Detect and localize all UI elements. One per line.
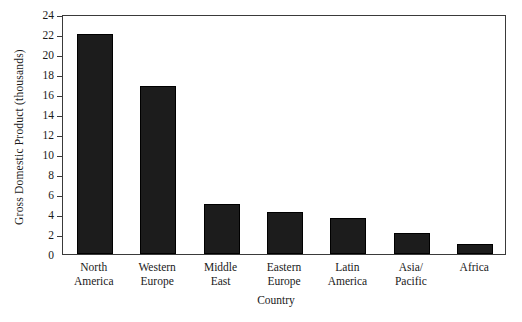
x-tick-label: Africa [430,260,518,274]
y-tick-label: 22 [26,30,54,41]
bar [204,204,240,254]
bar [267,212,303,254]
plot-area [62,15,506,255]
x-axis-title: Country [0,294,522,306]
bar-series [63,16,505,254]
y-tick-label: 18 [26,70,54,81]
y-tick-label: 12 [26,130,54,141]
bar [140,86,176,254]
y-tick-label: 2 [26,230,54,241]
y-tick-label: 16 [26,90,54,101]
bar [394,233,430,254]
y-tick-label: 6 [26,190,54,201]
bar [330,218,366,254]
y-tick-label: 10 [26,150,54,161]
y-tick-label: 20 [26,50,54,61]
y-axis-tick-labels: 024681012141618202224 [26,15,54,255]
x-axis-tick-labels: North AmericaWestern EuropeMiddle EastEa… [62,260,506,294]
chart-figure: Gross Domestic Product (thousands) 02468… [0,0,522,322]
bar [77,34,113,254]
y-tick-label: 4 [26,210,54,221]
y-tick-label: 8 [26,170,54,181]
y-tick-label: 0 [26,250,54,261]
bar [457,244,493,254]
y-tick-label: 24 [26,10,54,21]
y-tick-label: 14 [26,110,54,121]
